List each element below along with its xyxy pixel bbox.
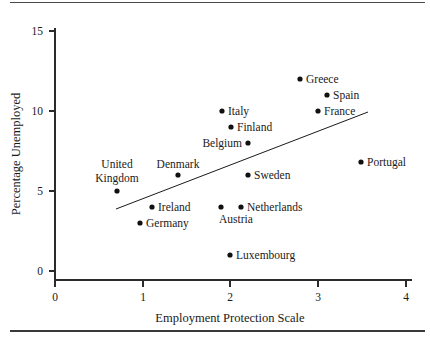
label-denmark: Denmark <box>157 158 200 170</box>
point-france[interactable] <box>315 108 320 113</box>
label-austria: Austria <box>219 213 253 225</box>
label-ireland: Ireland <box>158 201 191 213</box>
point-germany[interactable] <box>137 220 142 225</box>
label-united-kingdom-line2: Kingdom <box>95 172 139 185</box>
label-italy: Italy <box>228 105 249 118</box>
y-axis-title: Percentage Unemployed <box>9 92 23 215</box>
x-tick-label-4: 4 <box>403 291 409 303</box>
point-united-kingdom[interactable] <box>114 188 119 193</box>
label-luxembourg: Luxembourg <box>236 249 295 262</box>
figure-container: 15 10 5 0 0 1 2 3 4 Employment Protectio… <box>0 0 430 342</box>
point-italy[interactable] <box>219 108 224 113</box>
point-luxembourg[interactable] <box>227 252 232 257</box>
point-austria[interactable] <box>218 204 223 209</box>
y-tick-label-10: 10 <box>32 105 44 117</box>
label-greece: Greece <box>306 73 339 85</box>
label-sweden: Sweden <box>254 169 291 181</box>
point-spain[interactable] <box>324 92 329 97</box>
x-tick-label-3: 3 <box>315 291 321 303</box>
label-belgium: Belgium <box>202 137 242 150</box>
label-united-kingdom-line1: United <box>101 158 133 170</box>
point-finland[interactable] <box>228 124 233 129</box>
y-tick-label-15: 15 <box>32 25 44 37</box>
x-tick-label-1: 1 <box>140 291 146 303</box>
label-france: France <box>324 105 355 117</box>
data-point-labels: Greece Spain France Italy Finland Belgiu… <box>95 73 406 262</box>
label-netherlands: Netherlands <box>247 201 303 213</box>
point-greece[interactable] <box>297 76 302 81</box>
label-germany: Germany <box>146 217 189 230</box>
label-finland: Finland <box>237 121 272 133</box>
y-tick-label-0: 0 <box>37 265 43 277</box>
label-spain: Spain <box>333 89 359 102</box>
point-ireland[interactable] <box>149 204 154 209</box>
x-tick-label-2: 2 <box>227 291 233 303</box>
scatter-plot: 15 10 5 0 0 1 2 3 4 Employment Protectio… <box>0 0 430 342</box>
point-netherlands[interactable] <box>238 204 243 209</box>
point-portugal[interactable] <box>358 159 363 164</box>
point-belgium[interactable] <box>245 140 250 145</box>
x-tick-label-0: 0 <box>52 291 58 303</box>
data-points <box>114 76 363 257</box>
y-tick-label-5: 5 <box>37 185 43 197</box>
label-portugal: Portugal <box>367 156 406 169</box>
x-axis-title: Employment Protection Scale <box>155 311 305 325</box>
point-denmark[interactable] <box>175 172 180 177</box>
point-sweden[interactable] <box>245 172 250 177</box>
